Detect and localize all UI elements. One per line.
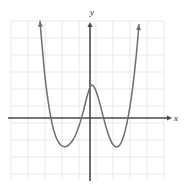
polynomial-graph-svg: x y: [0, 0, 184, 190]
y-axis-label: y: [89, 7, 94, 17]
x-axis-label: x: [173, 113, 178, 123]
graph-figure: x y: [0, 0, 184, 190]
